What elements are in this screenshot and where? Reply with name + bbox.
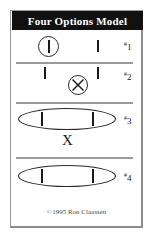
row-separator <box>16 157 133 159</box>
option-4-figure <box>11 160 142 192</box>
option-number-value: 4 <box>127 173 132 183</box>
x-mark-icon: X <box>62 133 73 148</box>
vertical-bar-icon <box>41 112 43 126</box>
option-number-value: 1 <box>127 42 132 52</box>
option-4-number: #4 <box>124 172 132 183</box>
vertical-bar-icon <box>48 40 50 53</box>
option-row-2: #2 <box>11 64 142 99</box>
option-1-number: #1 <box>124 41 132 52</box>
ellipse-with-two-bars-icon <box>18 165 116 187</box>
vertical-bar-icon <box>92 169 94 183</box>
option-row-1: #1 <box>11 32 142 62</box>
option-row-3: X #3 <box>11 105 142 153</box>
four-options-model-card: Four Options Model #1 #2 <box>10 10 143 228</box>
option-3-number: #3 <box>124 115 132 126</box>
footer: ©1995 Ron Claassen <box>11 200 142 218</box>
option-1-figure <box>11 32 142 62</box>
row-separator <box>16 102 133 104</box>
option-3-figure: X <box>11 105 142 153</box>
option-2-figure <box>11 64 142 99</box>
title-banner: Four Options Model <box>12 11 143 30</box>
vertical-bar-icon <box>41 169 43 183</box>
vertical-bar-icon <box>97 40 99 52</box>
vertical-bar-icon <box>92 112 94 126</box>
vertical-bar-icon <box>97 67 99 79</box>
x-inside-circle-icon <box>71 78 85 92</box>
option-number-value: 2 <box>127 72 132 82</box>
copyright-text: ©1995 Ron Claassen <box>47 208 106 216</box>
option-row-4: #4 <box>11 160 142 192</box>
option-number-value: 3 <box>127 116 132 126</box>
ellipse-with-two-bars-icon <box>18 108 116 130</box>
vertical-bar-icon <box>44 67 46 79</box>
page-title: Four Options Model <box>28 15 127 27</box>
option-2-number: #2 <box>124 71 132 82</box>
